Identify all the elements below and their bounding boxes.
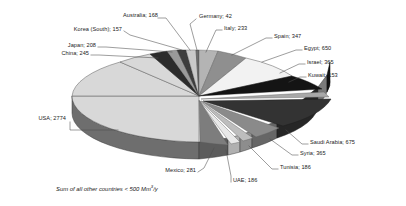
- callout-label-korea-south: Korea (South); 157: [0, 27, 122, 33]
- callout-label-uae: UAE; 186: [233, 178, 257, 184]
- callout-label-egypt: Egypt; 650: [304, 46, 331, 52]
- callout-label-italy: Italy; 233: [224, 26, 247, 32]
- footnote-prefix: Sum of all other countries < 500 Mm: [56, 186, 151, 192]
- callout-label-spain: Spain; 347: [274, 34, 301, 40]
- footnote-suffix: /y: [153, 186, 158, 192]
- chart-footnote: Sum of all other countries < 500 Mm3/y: [56, 184, 158, 192]
- callout-label-saudi-arabia: Saudi Arabia; 675: [310, 140, 355, 146]
- callout-label-mexico: Mexico; 281: [108, 168, 196, 174]
- callout-label-kuwait: Kuwait; 153: [308, 73, 338, 79]
- callout-label-tunisia: Tunisia; 186: [280, 165, 311, 171]
- callout-label-usa: USA; 2774: [0, 116, 66, 122]
- callout-label-australia: Australia; 168: [0, 13, 158, 19]
- callout-label-china: China; 245: [0, 51, 89, 57]
- callout-label-syria: Syria; 365: [300, 151, 326, 157]
- callout-label-japan: Japan; 208: [0, 43, 96, 49]
- callout-label-germany: Germany; 42: [199, 14, 232, 20]
- callout-label-israel: Israel; 365: [307, 60, 334, 66]
- pie-chart-figure: Australia; 168 Germany; 42 Italy; 233 Sp…: [0, 0, 406, 206]
